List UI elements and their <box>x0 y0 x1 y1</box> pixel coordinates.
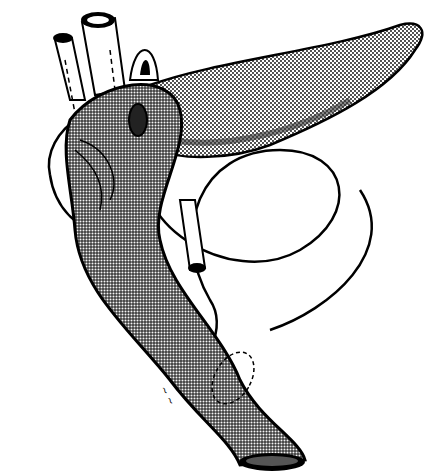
inner-vessel <box>180 200 205 270</box>
anatomy-drawing <box>0 0 436 474</box>
pancreas <box>150 24 422 157</box>
illustration: ~ ~ <box>0 0 436 474</box>
